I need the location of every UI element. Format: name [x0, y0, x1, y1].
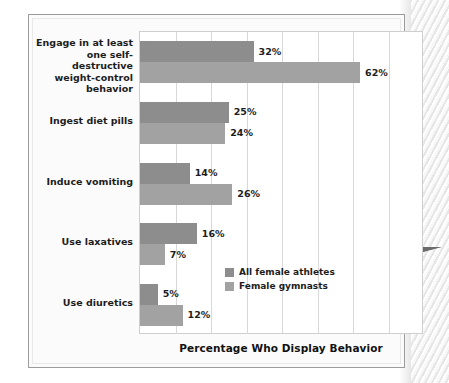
bar-value-0-series-0: 32% [259, 46, 282, 57]
bar-1-series-0 [140, 102, 229, 123]
legend-item-1: Female gymnasts [225, 281, 345, 291]
category-label-1: Ingest diet pills [29, 115, 133, 127]
scanned-page: Engage in at leastone self-destructivewe… [0, 0, 449, 383]
bar-3-series-1 [140, 244, 165, 265]
category-label-2: Induce vomiting [29, 176, 133, 188]
category-label-0: Engage in at leastone self-destructivewe… [29, 37, 133, 95]
legend-label-0: All female athletes [239, 267, 335, 277]
bar-value-4-series-0: 5% [163, 288, 179, 299]
bar-4-series-1 [140, 305, 183, 326]
gridline-70 [389, 32, 390, 333]
legend-label-1: Female gymnasts [239, 281, 328, 291]
category-label-column: Engage in at leastone self-destructivewe… [29, 31, 133, 334]
bar-value-2-series-1: 26% [237, 188, 260, 199]
bar-0-series-0 [140, 41, 254, 62]
bar-value-1-series-0: 25% [234, 106, 257, 117]
bar-3-series-0 [140, 223, 197, 244]
bar-2-series-0 [140, 163, 190, 184]
bar-value-3-series-0: 16% [202, 228, 225, 239]
chart-legend: All female athletesFemale gymnasts [225, 267, 345, 295]
bar-value-4-series-1: 12% [188, 309, 211, 320]
figure-frame: Engage in at leastone self-destructivewe… [28, 14, 405, 368]
x-axis-title: Percentage Who Display Behavior [139, 342, 423, 354]
bar-4-series-0 [140, 284, 158, 305]
bar-value-3-series-1: 7% [170, 249, 186, 260]
bar-value-2-series-0: 14% [195, 167, 218, 178]
category-label-3: Use laxatives [29, 236, 133, 248]
category-label-4: Use diuretics [29, 297, 133, 309]
bar-1-series-1 [140, 123, 225, 144]
bar-2-series-1 [140, 184, 232, 205]
legend-swatch-icon-0 [225, 268, 234, 277]
legend-item-0: All female athletes [225, 267, 345, 277]
bar-value-1-series-1: 24% [230, 127, 253, 138]
bar-value-0-series-1: 62% [365, 67, 388, 78]
legend-swatch-icon-1 [225, 282, 234, 291]
bar-0-series-1 [140, 62, 360, 83]
